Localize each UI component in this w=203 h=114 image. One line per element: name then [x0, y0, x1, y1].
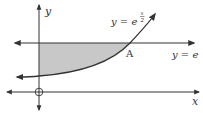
curve-label: y = e: [110, 16, 137, 27]
graph-svg: y x y = e x 2 A y = e: [0, 0, 203, 114]
curve-label-exponent-num: x: [141, 10, 145, 16]
x-axis-label: x: [192, 95, 199, 108]
y-axis-label: y: [44, 5, 52, 18]
curve-label-exponent-den: 2: [140, 17, 145, 23]
shaded-region: [39, 43, 130, 76]
point-a-label: A: [125, 48, 134, 59]
line-label: y = e: [171, 49, 198, 60]
diagram-canvas: y x y = e x 2 A y = e: [0, 0, 203, 114]
